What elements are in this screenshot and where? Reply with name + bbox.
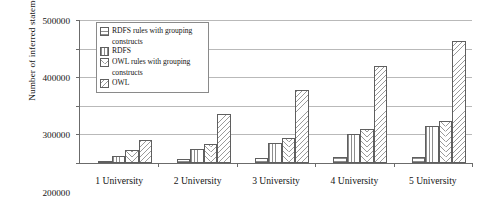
x-tick-mark: [472, 163, 473, 167]
legend-swatch-icon: [100, 47, 109, 56]
x-tick-label: 3 University: [252, 175, 300, 186]
bar: [268, 143, 282, 163]
bar: [282, 138, 296, 163]
bar: [425, 126, 439, 163]
bar: [360, 129, 374, 163]
x-tick-label: 5 University: [409, 175, 457, 186]
y-tick-mark: 0: [76, 163, 80, 164]
bar-group: [394, 20, 472, 163]
x-tick-mark: [315, 163, 316, 167]
legend-swatch-icon: [100, 58, 109, 67]
x-tick-mark: [237, 163, 238, 167]
x-tick-label: 4 University: [331, 175, 379, 186]
legend-label: OWL rules with grouping: [112, 57, 190, 66]
x-tick-mark: [394, 163, 395, 167]
bar-group: [315, 20, 393, 163]
bar: [190, 149, 204, 163]
legend-label: OWL: [112, 78, 129, 87]
legend-label: RDFS: [112, 46, 131, 55]
chart-legend: RDFS rules with groupingconstructsRDFSOW…: [96, 22, 209, 93]
bar: [347, 134, 361, 163]
bar: [255, 158, 269, 163]
legend-label-continuation: constructs: [100, 37, 204, 46]
chart-figure: Number of inferred statements 0100000200…: [0, 0, 479, 201]
bar: [204, 144, 218, 163]
y-tick-label: 300000: [42, 130, 70, 140]
bar-group: [237, 20, 315, 163]
legend-label: RDFS rules with grouping: [112, 26, 192, 35]
bar: [217, 114, 231, 163]
legend-swatch-icon: [100, 27, 109, 36]
bar: [295, 90, 309, 163]
bar: [439, 121, 453, 163]
bar: [374, 66, 388, 163]
bar: [333, 157, 347, 163]
x-tick-label: 1 University: [95, 175, 143, 186]
legend-entry: OWL: [100, 78, 204, 88]
y-tick-label: 500000: [42, 16, 70, 26]
legend-entry: RDFS: [100, 46, 204, 56]
legend-entry: RDFS rules with grouping: [100, 26, 204, 36]
bar: [98, 161, 112, 163]
y-tick-label: 200000: [42, 187, 70, 197]
x-tick-label: 2 University: [174, 175, 222, 186]
bar: [412, 157, 426, 163]
x-tick-mark: [158, 163, 159, 167]
legend-swatch-icon: [100, 79, 109, 88]
y-tick-label: 400000: [42, 73, 70, 83]
bar: [112, 156, 126, 163]
y-axis-title: Number of inferred statements: [27, 0, 37, 123]
bar: [177, 159, 191, 163]
legend-label-continuation: constructs: [100, 68, 204, 77]
legend-entry: OWL rules with grouping: [100, 57, 204, 67]
bar: [452, 41, 466, 163]
bar: [139, 140, 153, 163]
bar: [125, 150, 139, 163]
